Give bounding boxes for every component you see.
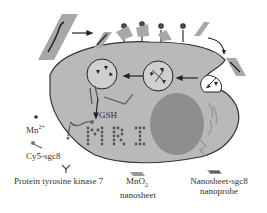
legend-probe-line2: nanoprobe (200, 186, 238, 196)
legend-probe-line1: Nanosheet-sgc8 (190, 176, 247, 186)
mn-ion-icon (34, 115, 38, 119)
legend-mno2: MnO2 nanosheet (120, 176, 154, 200)
cy5-sgc8-icon (31, 141, 42, 148)
label-gsh: GSH (99, 110, 117, 120)
nanosheet-probe-icon (207, 170, 222, 174)
ptk7-receptors (122, 22, 185, 42)
legend-mn-base: Mn (26, 125, 39, 135)
endosome-left (87, 59, 117, 89)
legend-nanoprobe: Nanosheet-sgc8 nanoprobe (186, 176, 252, 196)
nanosheet-probe-large (38, 14, 78, 60)
endocytosis-pocket (201, 75, 222, 92)
legend-mno2-base: MnO (126, 176, 145, 186)
legend-cy5-sgc8: Cy5-sgc8 (26, 151, 61, 161)
legend-mn-sup: 2+ (39, 124, 45, 130)
nucleus (150, 93, 204, 155)
legend-mno2-sub: 2 (145, 182, 148, 188)
legend-ptk7: Protein tyrosine kinase 7 (14, 176, 103, 186)
legend-mn: Mn2+ (26, 122, 45, 135)
ptk7-receptor-icon (62, 165, 70, 173)
legend-mno2-line2: nanosheet (120, 190, 156, 200)
